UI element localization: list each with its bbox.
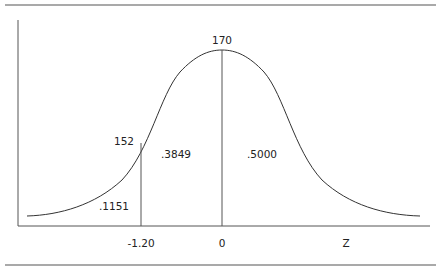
axis-name-z: Z	[342, 237, 349, 249]
area-left-tail-label: .1151	[99, 200, 129, 212]
area-right-label: .5000	[247, 148, 277, 160]
tick-label-cut: -1.20	[127, 237, 154, 249]
normal-curve	[27, 50, 420, 216]
peak-value-label: 170	[212, 34, 232, 46]
cut-value-label: 152	[114, 135, 134, 147]
normal-distribution-figure: 170 152 .3849 .5000 .1151 -1.20 0 Z	[0, 0, 444, 271]
tick-label-zero: 0	[219, 237, 226, 249]
area-middle-label: .3849	[161, 148, 191, 160]
